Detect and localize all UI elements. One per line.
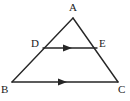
- triangle-diagram-svg: [0, 0, 130, 101]
- geometry-figure: A B C D E: [0, 0, 130, 101]
- arrow-on-BC-icon: [58, 78, 67, 85]
- vertex-label-E: E: [99, 38, 106, 49]
- vertex-label-A: A: [69, 2, 77, 13]
- arrow-on-DE-icon: [63, 44, 72, 51]
- vertex-label-C: C: [118, 84, 125, 95]
- vertex-label-D: D: [31, 38, 39, 49]
- side-AC-line: [73, 18, 118, 82]
- vertex-label-B: B: [1, 84, 8, 95]
